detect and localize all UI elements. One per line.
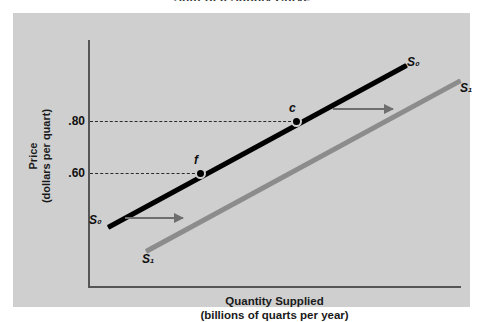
- figure-title: Shift of a Supply Curve: [0, 0, 484, 1]
- y-tick-label-60: .60: [61, 166, 85, 180]
- data-point-label-f: f: [194, 153, 198, 167]
- data-point-f: [195, 168, 206, 179]
- upper-shift-arrow-icon: [333, 108, 393, 110]
- curve-label-s1-top: S₁: [460, 81, 472, 95]
- y-tick-label-80: .80: [61, 114, 85, 128]
- y-axis-title: Price (dollars per quart): [27, 91, 53, 221]
- price-60-guide-line: [90, 173, 200, 174]
- price-80-guide-line: [90, 121, 296, 122]
- supply-curve-s1: [145, 78, 462, 253]
- data-point-label-c: c: [289, 101, 296, 115]
- x-axis-line: [88, 286, 461, 288]
- lower-shift-arrow-icon: [125, 217, 183, 219]
- curve-label-s0-top: S₀: [407, 55, 420, 69]
- y-axis-line: [88, 40, 90, 288]
- curve-label-s0-bottom: S₀: [89, 213, 102, 227]
- supply-curve-s0: [107, 63, 408, 230]
- x-axis-title: Quantity Supplied (billions of quarts pe…: [88, 294, 461, 322]
- chart-panel: Price (dollars per quart) Quantity Suppl…: [13, 13, 470, 307]
- curve-label-s1-bottom: S₁: [142, 252, 154, 266]
- data-point-c: [291, 116, 302, 127]
